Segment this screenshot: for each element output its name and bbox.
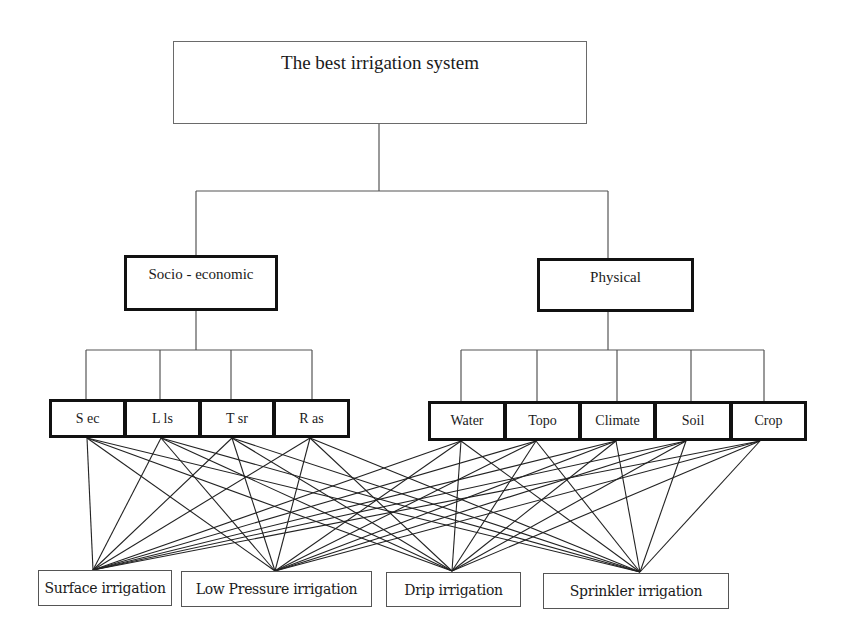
alternative-box-low-pressure-irrigation: Low Pressure irrigation <box>181 571 372 607</box>
criterion-label: Crop <box>755 413 783 429</box>
criterion-alternative-link <box>93 441 686 570</box>
criterion-alternative-link <box>93 438 310 570</box>
criterion-box-soil: Soil <box>654 401 732 441</box>
group-box-physical: Physical <box>537 258 694 312</box>
criterion-alternative-link <box>87 438 93 570</box>
criterion-box-sec: S ec <box>49 399 126 438</box>
criterion-alternative-link <box>616 441 640 572</box>
criterion-alternative-link <box>93 438 161 570</box>
criterion-label: Water <box>450 413 483 429</box>
criterion-alternative-link <box>275 441 686 571</box>
criterion-label: L ls <box>152 411 173 427</box>
criterion-alternative-link <box>275 441 461 571</box>
criterion-box-lls: L ls <box>124 399 201 438</box>
criterion-alternative-link <box>161 438 640 572</box>
group-label-physical: Physical <box>590 269 641 286</box>
criterion-alternative-link <box>640 441 760 572</box>
criterion-alternative-link <box>275 441 616 571</box>
criterion-box-ras: R as <box>273 399 350 438</box>
criterion-alternative-link <box>232 438 640 572</box>
criterion-box-tsr: T sr <box>199 399 275 438</box>
criterion-alternative-link <box>87 438 640 572</box>
group-label-socio-economic: Socio - economic <box>149 266 254 283</box>
alternative-box-drip-irrigation: Drip irrigation <box>386 572 521 607</box>
criterion-alternative-link <box>452 441 760 571</box>
group-box-socio-economic: Socio - economic <box>124 255 278 311</box>
criterion-box-climate: Climate <box>579 401 656 441</box>
goal-label: The best irrigation system <box>281 52 479 74</box>
criterion-alternative-link <box>275 441 760 571</box>
criterion-alternative-link <box>93 441 760 570</box>
criterion-alternative-link <box>93 441 536 570</box>
criterion-alternative-link <box>452 441 461 571</box>
criterion-alternative-link <box>461 441 640 572</box>
criterion-alternative-link <box>275 438 310 571</box>
criterion-label: Topo <box>528 413 557 429</box>
alternative-label: Surface irrigation <box>44 580 165 596</box>
criterion-alternative-link <box>87 438 275 571</box>
alternative-label: Sprinkler irrigation <box>570 583 702 599</box>
criterion-alternative-link <box>275 441 536 571</box>
criterion-box-topo: Topo <box>504 401 581 441</box>
alternative-label: Low Pressure irrigation <box>196 581 358 597</box>
criterion-label: T sr <box>226 411 248 427</box>
criterion-alternative-link <box>640 441 686 572</box>
criterion-alternative-link <box>93 438 232 570</box>
criterion-alternative-link <box>452 441 686 571</box>
alternative-box-sprinkler-irrigation: Sprinkler irrigation <box>543 573 729 609</box>
criterion-alternative-link <box>310 438 452 571</box>
criterion-alternative-link <box>536 441 640 572</box>
criterion-alternative-link <box>93 441 461 570</box>
criterion-alternative-link <box>452 441 536 571</box>
criterion-alternative-link <box>232 438 452 571</box>
goal-box: The best irrigation system <box>173 41 587 124</box>
criterion-label: Climate <box>595 413 639 429</box>
criterion-box-water: Water <box>428 401 506 441</box>
alternative-box-surface-irrigation: Surface irrigation <box>38 570 172 606</box>
criterion-alternative-link <box>87 438 452 571</box>
criterion-alternative-link <box>232 438 275 571</box>
criterion-alternative-link <box>310 438 640 572</box>
criterion-alternative-link <box>93 441 616 570</box>
alternative-label: Drip irrigation <box>404 582 503 598</box>
criterion-label: S ec <box>76 411 100 427</box>
criterion-alternative-link <box>161 438 275 571</box>
criterion-label: R as <box>299 411 324 427</box>
criterion-alternative-link <box>452 441 616 571</box>
criterion-box-crop: Crop <box>730 401 807 441</box>
criterion-label: Soil <box>682 413 705 429</box>
criterion-alternative-link <box>161 438 452 571</box>
ahp-hierarchy-diagram: The best irrigation system Socio - econo… <box>0 0 848 643</box>
